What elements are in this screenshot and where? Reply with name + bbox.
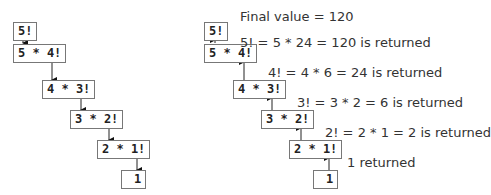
left-box-1: 1 <box>121 170 146 189</box>
right-box-1: 1 <box>313 170 338 189</box>
left-box-3-times-2-factorial: 3 * 2! <box>70 110 123 129</box>
right-box-2-times-1-factorial: 2 * 1! <box>289 140 342 159</box>
label-2-factorial-returned: 2! = 2 * 1 = 2 is returned <box>325 125 491 140</box>
label-4-factorial-returned: 4! = 4 * 6 = 24 is returned <box>268 65 442 80</box>
right-box-3-times-2-factorial: 3 * 2! <box>261 110 314 129</box>
left-box-4-times-3-factorial: 4 * 3! <box>42 80 95 99</box>
left-box-5-times-4-factorial: 5 * 4! <box>13 44 66 63</box>
label-5-factorial-returned: 5! = 5 * 24 = 120 is returned <box>240 35 431 50</box>
label-3-factorial-returned: 3! = 3 * 2 = 6 is returned <box>297 95 463 110</box>
left-box-5-factorial: 5! <box>13 22 37 41</box>
label-1-returned: 1 returned <box>347 155 415 170</box>
right-box-5-factorial: 5! <box>204 22 228 41</box>
right-box-4-times-3-factorial: 4 * 3! <box>233 80 286 99</box>
left-box-2-times-1-factorial: 2 * 1! <box>97 140 150 159</box>
label-final-value: Final value = 120 <box>240 9 354 24</box>
